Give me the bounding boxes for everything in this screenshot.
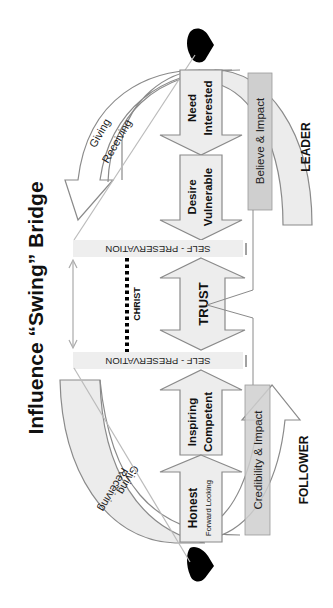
top-heart-icon	[187, 28, 214, 62]
influence-swing-bridge-diagram: Influence “Swing” Bridge LEADER Believe …	[0, 0, 333, 608]
bottom-heart-icon	[187, 547, 214, 581]
competent-label: Competent	[202, 392, 214, 452]
believe-impact-label: Believe & Impact	[254, 97, 266, 184]
desire-label: Desire	[186, 179, 198, 214]
need-label: Need	[186, 94, 198, 122]
honest-label: Honest	[186, 488, 200, 529]
christ-label: CHRIST	[132, 287, 142, 321]
forward-looking-label: Forward Looking	[204, 480, 213, 536]
follower-label: FOLLOWER	[297, 435, 311, 504]
self-preservation-top-label: SELF - PRESERVATION	[105, 244, 210, 255]
inspiring-label: Inspiring	[186, 398, 198, 447]
inspiring-competent-arrow	[160, 370, 242, 455]
diagram-title: Influence “Swing” Bridge	[24, 181, 47, 434]
leader-label: LEADER	[299, 122, 313, 172]
interested-label: Interested	[202, 81, 214, 136]
vulnerable-label: Vulnerable	[202, 168, 214, 226]
desire-vulnerable-arrow	[160, 155, 242, 240]
self-preservation-bottom-label: SELF - PRESERVATION	[105, 356, 210, 367]
credibility-impact-label: Credibility & Impact	[252, 410, 264, 510]
